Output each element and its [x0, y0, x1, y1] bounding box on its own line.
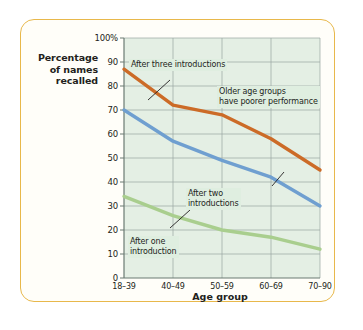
x-tick-label: 40–49: [149, 282, 197, 291]
y-tick-label: 50: [78, 153, 118, 163]
y-tick-label: 100%: [78, 33, 118, 43]
annotation-after-two-introductions: After two introductions: [186, 188, 241, 210]
y-tick-label: 80: [78, 81, 118, 91]
plot-wrapper: [0, 0, 363, 330]
figure-root: Percentageof namesrecalled 0102030405060…: [0, 0, 363, 330]
y-tick-label: 20: [78, 225, 118, 235]
annotation-after-one-introduction: After one introduction: [128, 236, 179, 258]
annotation-after-three-introductions: After three introductions: [129, 59, 227, 71]
x-tick-label: 60–69: [247, 282, 295, 291]
y-tick-label: 10: [78, 249, 118, 259]
y-tick-label: 40: [78, 177, 118, 187]
annotation-older-age-groups: Older age groups have poorer performance: [217, 86, 320, 108]
x-axis-title: Age group: [120, 291, 320, 302]
chart-svg: [0, 0, 363, 330]
x-tick-label: 70–90: [296, 282, 344, 291]
y-tick-label: 90: [78, 57, 118, 67]
y-tick-label: 30: [78, 201, 118, 211]
y-tick-label: 70: [78, 105, 118, 115]
x-tick-label: 50–59: [198, 282, 246, 291]
x-tick-label: 18–39: [100, 282, 148, 291]
y-tick-label: 60: [78, 129, 118, 139]
